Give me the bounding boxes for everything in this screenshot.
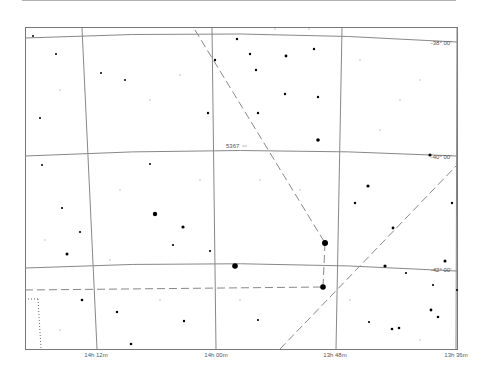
dec-line--38: [25, 34, 457, 42]
ra-label-13h36m: 13h 36m: [444, 352, 467, 358]
chart-frame: [26, 28, 458, 350]
dec-line--40: [25, 151, 457, 157]
dec-label--40: -40° 00': [431, 154, 452, 160]
object-label: 5367: [226, 143, 240, 149]
ra-line-13h36m: [456, 28, 457, 349]
dec-line--42: [25, 264, 457, 271]
ra-label-14h00m: 14h 00m: [204, 352, 227, 358]
star-chart[interactable]: -38° 00' -40° 00' -42° 00' 14h 12m 14h 0…: [0, 0, 487, 377]
ra-label-13h48m: 13h 48m: [323, 352, 346, 358]
faint-stars: [44, 28, 421, 341]
ra-label-14h12m: 14h 12m: [84, 352, 107, 358]
dec-label--38: -38° 00': [431, 40, 452, 46]
ra-line-14h12m: [82, 28, 97, 349]
ra-line-14h00m: [212, 28, 216, 349]
dotted-boundary: [28, 299, 41, 349]
stars: [32, 35, 458, 345]
dec-label--42: -42° 00': [431, 267, 452, 273]
ra-line-13h48m: [336, 28, 342, 349]
